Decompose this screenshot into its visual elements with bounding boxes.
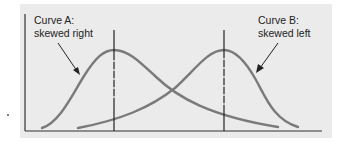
curve-a-label-line1: Curve A: — [34, 14, 74, 26]
curve-b-label-line2: skewed left — [258, 27, 311, 39]
curve-b-label-line1: Curve B: — [258, 14, 299, 26]
curve-a-label-line2: skewed right — [34, 27, 93, 39]
skewed-distributions-chart: Curve A: skewed right Curve B: skewed le… — [0, 0, 340, 145]
margin-dot — [7, 114, 9, 116]
